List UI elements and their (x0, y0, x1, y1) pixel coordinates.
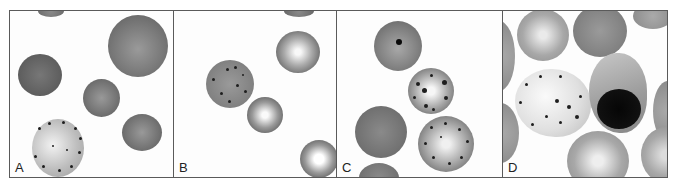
rbc-with-howell-jolly-body (374, 21, 422, 71)
stippled-cell (206, 60, 254, 108)
rbc (355, 106, 407, 158)
rbc (284, 10, 314, 17)
rbc (633, 10, 668, 29)
panel-label: A (15, 161, 24, 174)
blood-smear-figure: A B (9, 10, 667, 178)
pappenheimer-cell (408, 68, 454, 114)
rbc (108, 15, 168, 77)
rbc (641, 127, 668, 178)
panel-label: B (179, 161, 188, 174)
rbc (38, 10, 64, 17)
rbc (359, 163, 399, 178)
target-cell (300, 140, 337, 178)
panel-b: B (173, 10, 337, 178)
panel-d: D (502, 10, 668, 178)
basophilic-stippled-cell (32, 119, 84, 177)
panel-label: C (342, 161, 351, 174)
target-cell (247, 97, 283, 133)
rbc (18, 54, 62, 96)
rbc (83, 79, 120, 117)
rbc (573, 10, 627, 57)
panel-c: C (336, 10, 503, 178)
stippled-cell (418, 116, 474, 172)
nucleus (597, 89, 641, 129)
stippled-reticulocyte (515, 69, 591, 137)
rbc (517, 10, 569, 61)
target-cell (276, 31, 320, 73)
panel-label: D (508, 161, 517, 174)
panel-a: A (9, 10, 174, 178)
rbc (502, 21, 515, 91)
rbc (122, 114, 162, 151)
rbc (567, 131, 629, 178)
